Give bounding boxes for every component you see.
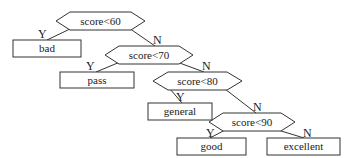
decision-node-score-lt-60: score<60	[56, 12, 145, 30]
decision-tree-diagram: Y N Y N Y N Y N score<60 score<70 score<…	[0, 0, 350, 158]
leaf-node-good: good	[177, 138, 246, 155]
edge-d2-pass	[96, 62, 120, 72]
branch-label-yes: Y	[176, 90, 185, 104]
leaf-label: general	[164, 105, 196, 117]
leaf-node-pass: pass	[60, 72, 134, 88]
branch-label-no: N	[253, 100, 262, 114]
decision-label: score<90	[232, 116, 273, 128]
leaf-label: bad	[39, 42, 55, 54]
edge-d3-d4	[225, 89, 256, 113]
branch-label-yes: Y	[38, 27, 47, 41]
leaf-label: pass	[88, 74, 107, 86]
branch-label-no: N	[153, 33, 162, 47]
leaf-label: excellent	[284, 140, 324, 152]
decision-node-score-lt-90: score<90	[209, 113, 295, 131]
edge-d2-d3	[177, 62, 204, 72]
decision-label: score<80	[177, 75, 218, 87]
edge-d1-d2	[129, 28, 155, 46]
edge-d4-excellent	[278, 130, 304, 138]
leaf-label: good	[201, 140, 224, 152]
decision-node-score-lt-80: score<80	[153, 72, 242, 90]
edge-d1-bad	[47, 28, 72, 40]
branch-label-yes: Y	[86, 59, 95, 73]
leaf-node-bad: bad	[13, 40, 81, 57]
decision-label: score<60	[80, 15, 121, 27]
decision-label: score<70	[129, 49, 170, 61]
leaf-node-general: general	[148, 103, 212, 120]
branch-label-no: N	[202, 59, 211, 73]
leaf-node-excellent: excellent	[267, 138, 340, 155]
decision-node-score-lt-70: score<70	[105, 46, 193, 64]
